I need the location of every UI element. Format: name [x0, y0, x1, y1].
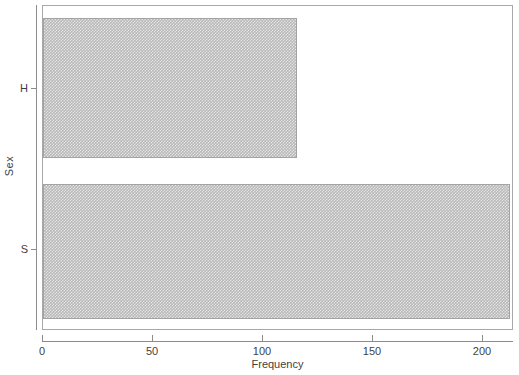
y-axis-line [36, 5, 37, 330]
x-tick-mark-50 [152, 335, 153, 341]
x-tick-label-150: 150 [352, 345, 392, 358]
x-tick-mark-0 [42, 335, 43, 341]
x-tick-mark-150 [372, 335, 373, 341]
bar-s [43, 184, 510, 319]
x-axis-title: Frequency [42, 358, 513, 370]
plot-area [43, 6, 512, 329]
plot-frame [42, 5, 513, 330]
x-tick-mark-200 [482, 335, 483, 341]
x-tick-mark-100 [262, 335, 263, 341]
y-tick-label-h: H [0, 83, 28, 94]
y-axis-title: Sex [3, 142, 15, 190]
x-tick-label-200: 200 [462, 345, 502, 358]
x-tick-label-0: 0 [22, 345, 62, 358]
y-tick-label-s: S [0, 244, 28, 255]
x-axis-line [42, 341, 513, 342]
y-tick-mark-s [31, 249, 37, 250]
bar-h [43, 18, 297, 158]
y-tick-mark-h [31, 88, 37, 89]
x-tick-label-100: 100 [242, 345, 282, 358]
x-tick-label-50: 50 [132, 345, 172, 358]
bar-chart: 0 50 100 150 200 Frequency H S Sex [0, 0, 519, 375]
